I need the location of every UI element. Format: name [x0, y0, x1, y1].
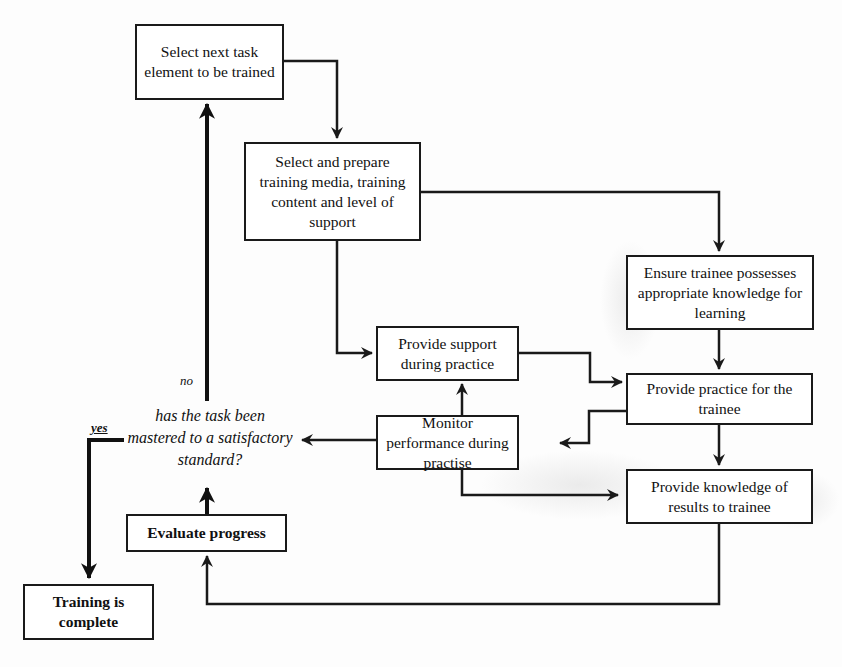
- edge-label-no: no: [180, 373, 193, 389]
- edge-label-yes: yes: [91, 420, 108, 436]
- node-evaluate-progress: Evaluate progress: [126, 514, 287, 552]
- node-label: Select next task element to be trained: [141, 42, 278, 82]
- node-label: Select and prepare training media, train…: [250, 152, 415, 232]
- node-provide-knowledge-of-results: Provide knowledge of results to trainee: [626, 469, 813, 524]
- training-flowchart: Select next task element to be trained S…: [0, 0, 842, 667]
- edge-support-to-practice: [518, 353, 622, 382]
- node-label: Provide support during practice: [382, 334, 513, 374]
- node-label: Evaluate progress: [147, 523, 266, 543]
- node-training-complete: Training is complete: [23, 584, 154, 640]
- node-monitor-performance: Monitor performance during practise: [376, 415, 519, 470]
- node-select-prepare-media: Select and prepare training media, train…: [244, 142, 421, 241]
- decision-question: has the task been mastered to a satisfac…: [125, 405, 295, 471]
- edge-select-next-to-prepare: [283, 61, 337, 138]
- node-label: Training is complete: [29, 592, 148, 632]
- node-ensure-knowledge: Ensure trainee possesses appropriate kno…: [626, 255, 814, 330]
- node-label: Monitor performance during practise: [382, 413, 513, 473]
- edge-prepare-to-ensure: [420, 192, 719, 251]
- node-label: Provide knowledge of results to trainee: [632, 477, 807, 517]
- edge-prepare-to-support: [337, 240, 372, 353]
- node-label: Ensure trainee possesses appropriate kno…: [632, 263, 808, 323]
- node-provide-practice: Provide practice for the trainee: [626, 373, 813, 425]
- edge-yes-to-complete: [89, 440, 124, 578]
- node-select-next-task: Select next task element to be trained: [135, 24, 284, 100]
- edge-practice-to-monitor: [560, 411, 626, 443]
- node-label: Provide practice for the trainee: [632, 379, 807, 419]
- node-provide-support: Provide support during practice: [376, 326, 519, 381]
- edge-monitor-to-kor: [462, 469, 618, 495]
